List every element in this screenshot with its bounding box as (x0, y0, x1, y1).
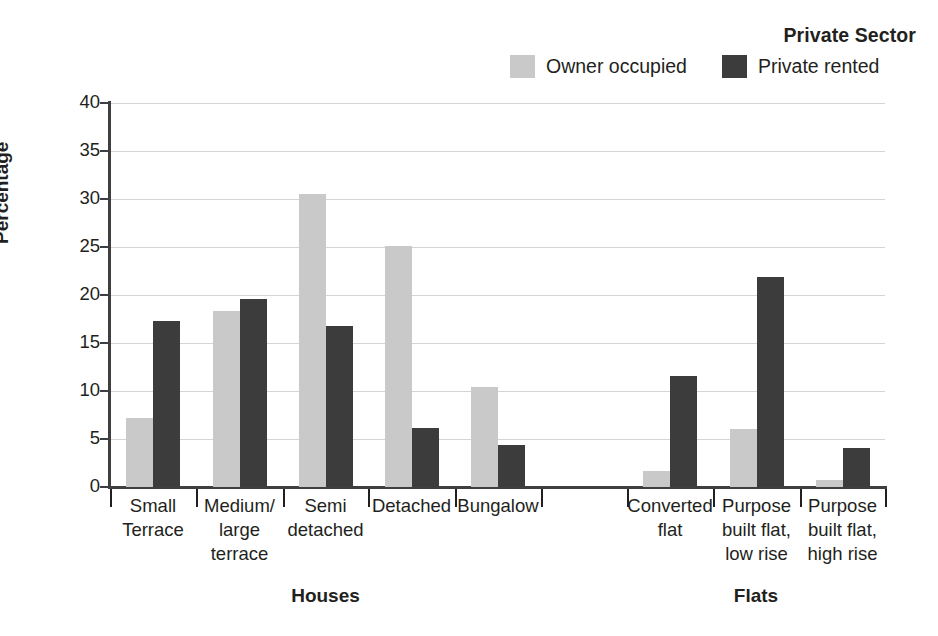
bar-owner-occupied (471, 387, 498, 487)
y-tick-mark (100, 102, 111, 104)
x-axis-category-label-line: flat (627, 518, 713, 542)
y-tick-mark (100, 342, 111, 344)
x-axis-group-label: Flats (627, 585, 885, 607)
legend-label-owner-occupied: Owner occupied (546, 55, 687, 78)
bar-private-rented (843, 448, 870, 487)
bar-private-rented (153, 321, 180, 487)
y-tick-mark (100, 198, 111, 200)
y-tick-label: 10 (54, 379, 100, 401)
y-tick-label: 25 (54, 235, 100, 257)
y-axis-title: Percentage (0, 142, 13, 244)
y-tick-mark (100, 438, 111, 440)
y-tick-label: 5 (54, 427, 100, 449)
x-axis-category-label-line: terrace (196, 542, 283, 566)
y-tick-label: 30 (54, 187, 100, 209)
x-axis-category-label: Purposebuilt flat,high rise (800, 494, 885, 566)
x-axis-tick (541, 489, 543, 507)
x-axis-category-label: Medium/largeterrace (196, 494, 283, 566)
x-axis-category-label-line: Semi (283, 494, 368, 518)
y-tick-mark (100, 390, 111, 392)
legend-item-private-rented: Private rented (722, 54, 879, 78)
y-tick-mark (100, 486, 111, 488)
bar-private-rented (240, 299, 267, 487)
y-tick-mark (100, 246, 111, 248)
y-tick-label: 35 (54, 139, 100, 161)
x-axis-category-label-line: detached (283, 518, 368, 542)
bar-chart: Private Sector Owner occupied Private re… (0, 0, 938, 636)
x-axis-category-label-line: Small (110, 494, 196, 518)
x-axis-category-label-line: Purpose (800, 494, 885, 518)
x-axis-category-label-line: built flat, (713, 518, 800, 542)
gridline (111, 199, 885, 200)
bar-private-rented (670, 376, 697, 487)
x-axis-category-label: Semidetached (283, 494, 368, 542)
y-tick-label: 40 (54, 91, 100, 113)
chart-legend: Private Sector Owner occupied Private re… (0, 24, 938, 86)
y-tick-mark (100, 294, 111, 296)
x-axis-right-edge-tick (885, 489, 887, 507)
bar-owner-occupied (213, 311, 240, 487)
x-axis-group-label: Houses (110, 585, 541, 607)
gridline (111, 247, 885, 248)
legend-swatch-owner-occupied (510, 55, 535, 78)
gridline (111, 151, 885, 152)
bar-owner-occupied (816, 480, 843, 487)
x-axis-category-label: Purposebuilt flat,low rise (713, 494, 800, 566)
x-axis-category-label-line: Detached (368, 494, 455, 518)
y-tick-label: 0 (54, 475, 100, 497)
y-tick-label: 20 (54, 283, 100, 305)
x-axis-category-label-line: low rise (713, 542, 800, 566)
bar-owner-occupied (299, 194, 326, 487)
legend-swatch-private-rented (722, 55, 747, 78)
gridline (111, 103, 885, 104)
legend-item-owner-occupied: Owner occupied (510, 54, 687, 78)
x-axis-category-label-line: built flat, (800, 518, 885, 542)
bar-private-rented (757, 277, 784, 487)
legend-label-private-rented: Private rented (758, 55, 879, 78)
bar-owner-occupied (730, 429, 757, 487)
legend-title: Private Sector (783, 24, 916, 47)
bar-private-rented (498, 445, 525, 487)
x-axis-category-label: Bungalow (455, 494, 541, 518)
plot-area (111, 103, 885, 487)
y-tick-label: 15 (54, 331, 100, 353)
x-axis-category-label-line: large (196, 518, 283, 542)
x-axis-category-label-line: Medium/ (196, 494, 283, 518)
bar-owner-occupied (126, 418, 153, 487)
x-axis-category-label-line: Bungalow (455, 494, 541, 518)
x-axis-category-label: Convertedflat (627, 494, 713, 542)
x-axis-category-label-line: Converted (627, 494, 713, 518)
x-axis-category-label-line: high rise (800, 542, 885, 566)
x-axis-category-label-line: Terrace (110, 518, 196, 542)
x-axis-category-label: Detached (368, 494, 455, 518)
x-axis-category-label: SmallTerrace (110, 494, 196, 542)
bar-private-rented (326, 326, 353, 487)
bar-private-rented (412, 428, 439, 487)
y-axis-ticks: 0510152025303540 (42, 0, 100, 636)
bar-owner-occupied (643, 471, 670, 487)
bar-owner-occupied (385, 246, 412, 487)
y-tick-mark (100, 150, 111, 152)
x-axis-category-label-line: Purpose (713, 494, 800, 518)
